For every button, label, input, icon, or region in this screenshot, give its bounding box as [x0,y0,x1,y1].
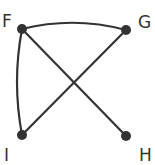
label-f: F [2,11,12,31]
node-g [121,25,131,35]
edge-f-i [17,29,22,135]
label-g: G [138,12,151,32]
node-f [17,24,27,34]
label-h: H [139,145,152,165]
graph-canvas: F G I H [0,0,155,165]
node-h [121,131,131,141]
edge-f-g [22,23,126,30]
node-i [17,130,27,140]
label-i: I [4,145,9,165]
